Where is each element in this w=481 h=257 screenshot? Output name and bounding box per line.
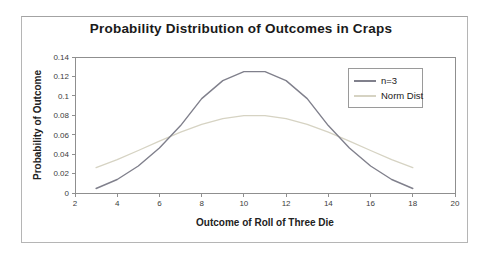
- legend-label-norm-dist: Norm Dist: [381, 90, 423, 101]
- legend-line-sample-n3: [354, 80, 376, 82]
- x-tick-label: 20: [451, 199, 460, 208]
- legend-item-norm-dist: Norm Dist: [354, 90, 417, 101]
- chart-figure: Probability Distribution of Outcomes in …: [0, 0, 481, 257]
- x-tick-label: 4: [115, 199, 120, 208]
- legend-item-n3: n=3: [354, 75, 417, 86]
- y-tick-label: 0.04: [53, 150, 69, 159]
- y-tick-label: 0: [65, 189, 70, 198]
- y-tick-label: 0.12: [53, 72, 69, 81]
- legend: n=3 Norm Dist: [348, 68, 423, 108]
- x-tick-label: 8: [199, 199, 204, 208]
- x-tick-label: 12: [282, 199, 291, 208]
- series-line-1: [96, 116, 413, 168]
- x-tick-label: 18: [408, 199, 417, 208]
- y-tick-label: 0.06: [53, 131, 69, 140]
- legend-line-sample-norm-dist: [354, 95, 376, 97]
- x-axis-title: Outcome of Roll of Three Die: [75, 217, 455, 228]
- y-tick-label: 0.08: [53, 111, 69, 120]
- y-tick-label: 0.02: [53, 169, 69, 178]
- y-tick-label: 0.1: [58, 92, 70, 101]
- x-tick-label: 14: [324, 199, 333, 208]
- y-tick-label: 0.14: [53, 53, 69, 62]
- x-tick-label: 6: [157, 199, 162, 208]
- x-tick-label: 2: [73, 199, 78, 208]
- legend-label-n3: n=3: [381, 75, 397, 86]
- x-tick-label: 16: [366, 199, 375, 208]
- x-tick-label: 10: [239, 199, 248, 208]
